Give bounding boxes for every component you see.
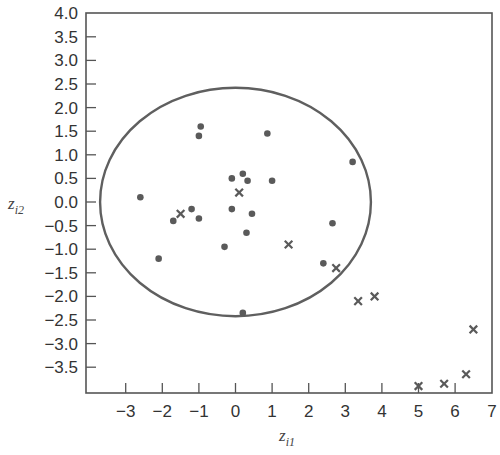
plot-frame (86, 13, 492, 393)
x-axis-ticks: −3−2−101234567 (116, 383, 497, 421)
dot-marker (349, 159, 356, 166)
y-tick-label: 2.0 (54, 99, 78, 118)
y-tick-label: 0.0 (54, 193, 78, 212)
x-axis-label-sub: i1 (286, 435, 295, 449)
svg-text:zi2: zi2 (7, 194, 24, 217)
svg-text:zi1: zi1 (278, 426, 295, 449)
y-tick-label: −3.0 (44, 335, 78, 354)
y-tick-label: −3.5 (44, 358, 78, 377)
dot-marker (196, 215, 203, 222)
y-tick-label: 2.5 (54, 75, 78, 94)
cross-marker (371, 293, 379, 301)
x-tick-label: 0 (231, 402, 240, 421)
x-tick-label: 7 (487, 402, 496, 421)
dot-marker (196, 133, 203, 140)
cross-marker (440, 380, 448, 388)
dot-marker (155, 255, 162, 262)
cross-marker (177, 210, 185, 218)
cross-marker (470, 326, 478, 334)
dot-marker (197, 123, 204, 130)
x-tick-label: 6 (450, 402, 459, 421)
x-tick-label: 4 (377, 402, 386, 421)
dot-marker (170, 218, 177, 225)
cross-marker (332, 264, 340, 272)
dot-marker (137, 194, 144, 201)
dot-marker (249, 211, 256, 218)
dot-marker (229, 175, 236, 182)
dot-marker (269, 177, 276, 184)
dot-marker (264, 130, 271, 137)
y-tick-label: 1.5 (54, 122, 78, 141)
series-crosses (177, 189, 477, 390)
dot-marker (320, 260, 327, 267)
confidence-ellipse (100, 88, 371, 316)
y-axis-label-sub: i2 (15, 203, 24, 217)
y-tick-label: 3.5 (54, 28, 78, 47)
y-tick-label: 0.5 (54, 169, 78, 188)
y-tick-label: −1.5 (44, 264, 78, 283)
x-tick-label: −3 (116, 402, 135, 421)
cross-marker (462, 370, 470, 378)
ellipse-outline (100, 88, 371, 316)
data-points (137, 123, 477, 390)
x-axis-label: zi1 (278, 426, 295, 449)
x-tick-label: 1 (267, 402, 276, 421)
y-tick-label: −2.5 (44, 311, 78, 330)
dot-marker (240, 310, 247, 317)
dot-marker (244, 177, 251, 184)
x-tick-label: 2 (304, 402, 313, 421)
y-axis-ticks: 4.03.53.02.52.01.51.00.50.0−0.5−1.0−1.5−… (44, 4, 96, 377)
y-axis-label: zi2 (7, 194, 24, 217)
y-tick-label: 3.0 (54, 51, 78, 70)
y-tick-label: −0.5 (44, 217, 78, 236)
dot-marker (240, 170, 247, 177)
cross-marker (235, 189, 243, 197)
cross-marker (285, 241, 293, 249)
y-tick-label: −1.0 (44, 240, 78, 259)
x-tick-label: 5 (414, 402, 423, 421)
dot-marker (229, 206, 236, 213)
x-tick-label: −1 (189, 402, 208, 421)
plot-border (86, 13, 492, 393)
series-dots (137, 123, 356, 316)
scatter-plot: 4.03.53.02.52.01.51.00.50.0−0.5−1.0−1.5−… (0, 0, 500, 455)
y-tick-label: 4.0 (54, 4, 78, 23)
dot-marker (243, 229, 250, 236)
y-tick-label: −2.0 (44, 287, 78, 306)
dot-marker (221, 244, 228, 251)
x-tick-label: −2 (153, 402, 172, 421)
cross-marker (354, 297, 362, 305)
dot-marker (329, 220, 336, 227)
x-tick-label: 3 (341, 402, 350, 421)
dot-marker (188, 206, 195, 213)
y-tick-label: 1.0 (54, 146, 78, 165)
